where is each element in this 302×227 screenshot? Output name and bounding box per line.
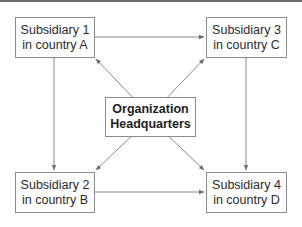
headquarters-line1: Organization bbox=[112, 102, 188, 117]
subsidiary-4-box: Subsidiary 4 in country D bbox=[206, 172, 287, 213]
subsidiary-3-line2: in country C bbox=[213, 38, 280, 53]
headquarters-line2: Headquarters bbox=[110, 117, 191, 132]
subsidiary-4-line2: in country D bbox=[213, 193, 280, 208]
subsidiary-2-box: Subsidiary 2 in country B bbox=[15, 172, 95, 213]
headquarters-box: Organization Headquarters bbox=[105, 97, 196, 137]
subsidiary-1-line1: Subsidiary 1 bbox=[21, 23, 90, 38]
subsidiary-2-line1: Subsidiary 2 bbox=[21, 178, 90, 193]
subsidiary-3-line1: Subsidiary 3 bbox=[212, 23, 281, 38]
subsidiary-2-line2: in country B bbox=[22, 193, 88, 208]
subsidiary-3-box: Subsidiary 3 in country C bbox=[206, 17, 287, 58]
subsidiary-1-box: Subsidiary 1 in country A bbox=[15, 17, 95, 58]
subsidiary-1-line2: in country A bbox=[22, 38, 87, 53]
subsidiary-4-line1: Subsidiary 4 bbox=[212, 178, 281, 193]
